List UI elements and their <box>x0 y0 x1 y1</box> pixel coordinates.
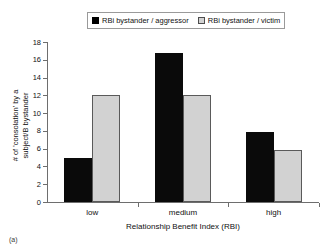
x-group-label-low: low <box>86 208 98 218</box>
bar-low-victim <box>92 95 120 202</box>
x-group-label-high: high <box>266 208 281 218</box>
y-tick: 6 <box>47 149 48 150</box>
y-axis-title-line2: subject/B bystander <box>21 89 31 161</box>
y-tick-label: 12 <box>33 92 41 100</box>
y-tick-label: 16 <box>33 56 41 64</box>
legend-swatch-filled-square-icon <box>92 17 99 24</box>
y-tick-mark <box>43 202 47 203</box>
x-tick-mark <box>319 203 320 207</box>
x-tick-mark <box>138 203 139 207</box>
bar-medium-aggressor <box>155 53 183 202</box>
plot-inner: 024681012141618 <box>47 42 319 203</box>
y-tick: 0 <box>47 202 48 203</box>
bar-low-aggressor <box>64 158 92 202</box>
y-tick-mark <box>43 166 47 167</box>
y-tick-mark <box>43 60 47 61</box>
y-axis-line <box>47 42 48 203</box>
y-tick-label: 14 <box>33 74 41 82</box>
y-tick-mark <box>43 78 47 79</box>
y-axis-title-text: # of 'consolation' by a subject/B bystan… <box>12 89 31 161</box>
x-group-label-medium: medium <box>169 208 197 218</box>
legend-label-victim: RBi bystander / victim <box>208 16 281 25</box>
y-tick-mark <box>43 95 47 96</box>
y-tick: 2 <box>47 184 48 185</box>
legend-swatch-outlined-square-icon <box>198 17 205 24</box>
y-tick-mark <box>43 113 47 114</box>
chart-legend: RBi bystander / aggressor RBi bystander … <box>87 12 285 29</box>
y-tick-mark <box>43 184 47 185</box>
y-tick: 18 <box>47 42 48 43</box>
y-tick: 8 <box>47 131 48 132</box>
figure-tag: (a) <box>9 235 18 244</box>
y-tick: 14 <box>47 78 48 79</box>
legend-entry-victim: RBi bystander / victim <box>198 16 281 25</box>
y-tick-label: 2 <box>37 181 41 189</box>
y-tick-label: 4 <box>37 163 41 171</box>
y-axis-title-line1: # of 'consolation' by a <box>12 89 22 161</box>
plot-area: 024681012141618 <box>47 42 319 203</box>
y-tick-label: 18 <box>33 39 41 47</box>
y-tick-mark <box>43 131 47 132</box>
y-tick-label: 6 <box>37 145 41 153</box>
y-tick-mark <box>43 42 47 43</box>
legend-label-aggressor: RBi bystander / aggressor <box>102 16 189 25</box>
legend-entry-aggressor: RBi bystander / aggressor <box>92 16 189 25</box>
y-tick: 10 <box>47 113 48 114</box>
y-tick-label: 10 <box>33 110 41 118</box>
bar-high-victim <box>274 150 302 202</box>
y-tick-label: 0 <box>37 199 41 207</box>
y-tick-label: 8 <box>37 127 41 135</box>
y-tick: 12 <box>47 95 48 96</box>
bar-high-aggressor <box>246 132 274 202</box>
y-tick: 4 <box>47 166 48 167</box>
x-axis-title: Relationship Benefit Index (RBI) <box>47 222 319 232</box>
x-tick-mark <box>228 203 229 207</box>
bar-medium-victim <box>183 95 211 202</box>
y-tick: 16 <box>47 60 48 61</box>
x-axis-line <box>47 202 319 203</box>
y-tick-mark <box>43 149 47 150</box>
y-axis-title: # of 'consolation' by a subject/B bystan… <box>9 60 33 190</box>
